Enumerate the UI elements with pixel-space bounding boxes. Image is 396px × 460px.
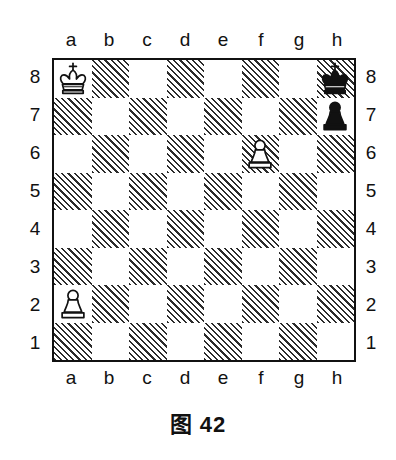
square-g7[interactable] bbox=[279, 98, 317, 136]
square-b1[interactable] bbox=[92, 323, 130, 361]
square-b6[interactable] bbox=[92, 135, 130, 173]
white-pawn-icon[interactable] bbox=[243, 137, 277, 171]
square-h8[interactable] bbox=[317, 60, 355, 98]
square-f5[interactable] bbox=[242, 173, 280, 211]
square-e1[interactable] bbox=[204, 323, 242, 361]
rank-label-5-left: 5 bbox=[22, 172, 48, 210]
chessboard[interactable] bbox=[52, 58, 356, 362]
file-label-b-bottom: b bbox=[90, 366, 128, 390]
square-e3[interactable] bbox=[204, 248, 242, 286]
square-h6[interactable] bbox=[317, 135, 355, 173]
square-f3[interactable] bbox=[242, 248, 280, 286]
square-d6[interactable] bbox=[167, 135, 205, 173]
figure-caption: 图 42 bbox=[0, 406, 396, 438]
rank-label-4-left: 4 bbox=[22, 210, 48, 248]
square-a5[interactable] bbox=[54, 173, 92, 211]
square-h4[interactable] bbox=[317, 210, 355, 248]
rank-label-2-left: 2 bbox=[22, 286, 48, 324]
rank-label-3-right: 3 bbox=[358, 248, 384, 286]
rank-labels-right: 87654321 bbox=[358, 58, 384, 362]
file-label-d-top: d bbox=[166, 28, 204, 52]
square-f7[interactable] bbox=[242, 98, 280, 136]
square-h1[interactable] bbox=[317, 323, 355, 361]
square-f2[interactable] bbox=[242, 285, 280, 323]
file-labels-bottom: abcdefgh bbox=[52, 366, 356, 390]
rank-label-1-left: 1 bbox=[22, 324, 48, 362]
white-pawn-icon[interactable] bbox=[56, 287, 90, 321]
square-b7[interactable] bbox=[92, 98, 130, 136]
file-label-a-bottom: a bbox=[52, 366, 90, 390]
square-e8[interactable] bbox=[204, 60, 242, 98]
square-c4[interactable] bbox=[129, 210, 167, 248]
square-d7[interactable] bbox=[167, 98, 205, 136]
square-g2[interactable] bbox=[279, 285, 317, 323]
square-c1[interactable] bbox=[129, 323, 167, 361]
file-label-g-top: g bbox=[280, 28, 318, 52]
file-label-g-bottom: g bbox=[280, 366, 318, 390]
square-f4[interactable] bbox=[242, 210, 280, 248]
square-e7[interactable] bbox=[204, 98, 242, 136]
square-a7[interactable] bbox=[54, 98, 92, 136]
rank-label-8-right: 8 bbox=[358, 58, 384, 96]
square-f6[interactable] bbox=[242, 135, 280, 173]
rank-label-6-left: 6 bbox=[22, 134, 48, 172]
square-d8[interactable] bbox=[167, 60, 205, 98]
square-e6[interactable] bbox=[204, 135, 242, 173]
file-label-f-bottom: f bbox=[242, 366, 280, 390]
rank-label-6-right: 6 bbox=[358, 134, 384, 172]
square-b5[interactable] bbox=[92, 173, 130, 211]
square-h3[interactable] bbox=[317, 248, 355, 286]
black-king-icon[interactable] bbox=[318, 62, 352, 96]
square-c7[interactable] bbox=[129, 98, 167, 136]
square-g3[interactable] bbox=[279, 248, 317, 286]
rank-label-2-right: 2 bbox=[358, 286, 384, 324]
square-b4[interactable] bbox=[92, 210, 130, 248]
square-b2[interactable] bbox=[92, 285, 130, 323]
square-c3[interactable] bbox=[129, 248, 167, 286]
file-label-d-bottom: d bbox=[166, 366, 204, 390]
rank-labels-left: 87654321 bbox=[22, 58, 48, 362]
square-g1[interactable] bbox=[279, 323, 317, 361]
square-g5[interactable] bbox=[279, 173, 317, 211]
square-e5[interactable] bbox=[204, 173, 242, 211]
white-king-icon[interactable] bbox=[56, 62, 90, 96]
square-d2[interactable] bbox=[167, 285, 205, 323]
square-a3[interactable] bbox=[54, 248, 92, 286]
square-a2[interactable] bbox=[54, 285, 92, 323]
square-a1[interactable] bbox=[54, 323, 92, 361]
file-label-c-bottom: c bbox=[128, 366, 166, 390]
square-f1[interactable] bbox=[242, 323, 280, 361]
rank-label-7-right: 7 bbox=[358, 96, 384, 134]
square-c2[interactable] bbox=[129, 285, 167, 323]
square-g6[interactable] bbox=[279, 135, 317, 173]
square-a4[interactable] bbox=[54, 210, 92, 248]
square-f8[interactable] bbox=[242, 60, 280, 98]
rank-label-4-right: 4 bbox=[358, 210, 384, 248]
rank-label-7-left: 7 bbox=[22, 96, 48, 134]
square-c6[interactable] bbox=[129, 135, 167, 173]
square-g8[interactable] bbox=[279, 60, 317, 98]
square-e4[interactable] bbox=[204, 210, 242, 248]
rank-label-5-right: 5 bbox=[358, 172, 384, 210]
square-h5[interactable] bbox=[317, 173, 355, 211]
square-b8[interactable] bbox=[92, 60, 130, 98]
square-d4[interactable] bbox=[167, 210, 205, 248]
file-label-f-top: f bbox=[242, 28, 280, 52]
square-c5[interactable] bbox=[129, 173, 167, 211]
file-label-a-top: a bbox=[52, 28, 90, 52]
square-h2[interactable] bbox=[317, 285, 355, 323]
chess-figure: abcdefgh 87654321 bbox=[0, 0, 396, 460]
square-g4[interactable] bbox=[279, 210, 317, 248]
square-d3[interactable] bbox=[167, 248, 205, 286]
file-label-e-top: e bbox=[204, 28, 242, 52]
rank-label-3-left: 3 bbox=[22, 248, 48, 286]
square-e2[interactable] bbox=[204, 285, 242, 323]
square-h7[interactable] bbox=[317, 98, 355, 136]
square-a8[interactable] bbox=[54, 60, 92, 98]
square-d1[interactable] bbox=[167, 323, 205, 361]
square-d5[interactable] bbox=[167, 173, 205, 211]
square-c8[interactable] bbox=[129, 60, 167, 98]
black-pawn-icon[interactable] bbox=[318, 99, 352, 133]
square-b3[interactable] bbox=[92, 248, 130, 286]
square-a6[interactable] bbox=[54, 135, 92, 173]
